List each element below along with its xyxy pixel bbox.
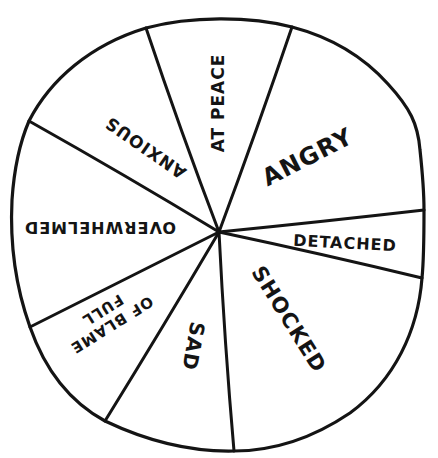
slice-label-text: OVERWHELMED (24, 218, 176, 237)
slice-label-at-peace: AT PEACE (208, 54, 228, 153)
emotion-pie-chart: AT PEACEANGRYDETACHEDSHOCKEDSADOF BLAMEF… (0, 0, 438, 458)
slice-label-text: AT PEACE (208, 54, 228, 153)
slice-label-overwhelmed: OVERWHELMED (24, 218, 176, 237)
